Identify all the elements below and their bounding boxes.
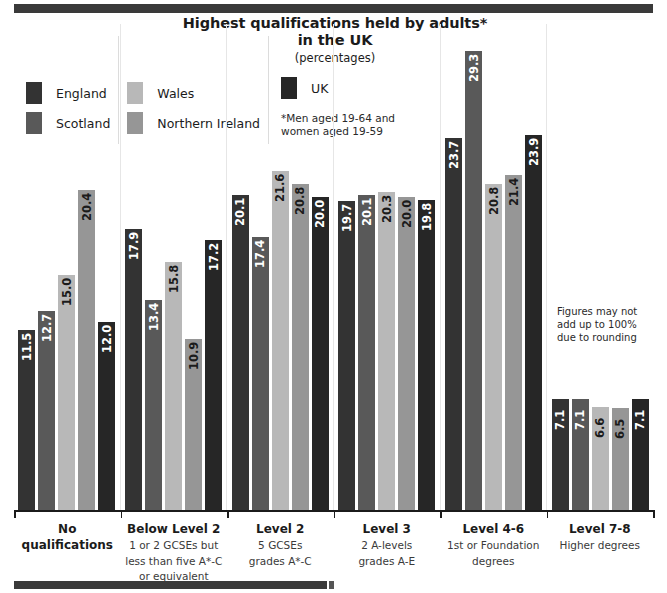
category-label: Level 4-61st or Foundationdegrees: [440, 521, 547, 584]
category-label-main: Below Level 2: [125, 521, 224, 537]
bar-value-label: 20.0: [398, 211, 415, 228]
bar-value-label: 21.6: [272, 185, 289, 202]
bar-value-label: 20.4: [78, 204, 95, 221]
bar-group: 17.913.415.810.917.2: [121, 24, 228, 510]
category-label-sub: grades A*-C: [231, 555, 330, 569]
bar: 20.8: [292, 184, 309, 510]
bar-value-label: 20.1: [232, 209, 249, 226]
bar: 7.1: [632, 399, 649, 510]
bar-value-label: 6.6: [592, 421, 609, 438]
bar-value-label: 23.7: [445, 152, 462, 169]
bar-value-label: 11.5: [18, 344, 35, 361]
bar: 19.8: [418, 200, 435, 510]
bar: 6.6: [592, 407, 609, 511]
bar-value-label: 10.9: [185, 353, 202, 370]
category-label: Below Level 21 or 2 GCSEs butless than f…: [121, 521, 228, 584]
bar: 21.6: [272, 171, 289, 510]
bar: 19.7: [338, 201, 355, 510]
bar: 23.7: [445, 138, 462, 510]
category-label-main: Level 2: [231, 521, 330, 537]
bar: 11.5: [18, 330, 35, 510]
category-label-sub: grades A-E: [338, 555, 437, 569]
bar-group: 7.17.16.66.57.1: [547, 24, 653, 510]
bar-value-label: 19.8: [418, 214, 435, 231]
bar-value-label: 20.1: [358, 209, 375, 226]
bar: 6.5: [612, 408, 629, 510]
bar: 10.9: [185, 339, 202, 510]
x-axis-tick: [653, 510, 655, 518]
header-rule: [14, 4, 653, 13]
category-label: Level 32 A-levelsgrades A-E: [334, 521, 441, 584]
bar-value-label: 15.8: [165, 276, 182, 293]
bar-value-label: 19.7: [338, 215, 355, 232]
bar: 12.0: [98, 322, 115, 510]
category-label-main: Level 3: [338, 521, 437, 537]
bar-value-label: 23.9: [525, 149, 542, 166]
bar: 29.3: [465, 51, 482, 510]
bar-value-label: 20.3: [378, 206, 395, 223]
x-axis-tick: [440, 510, 442, 518]
x-axis-tick: [121, 510, 123, 518]
bar: 20.1: [358, 195, 375, 510]
bar-value-label: 21.4: [505, 189, 522, 206]
bar: 20.0: [312, 197, 329, 511]
bar-value-label: 17.9: [125, 243, 142, 260]
bar-groups: 11.512.715.020.412.017.913.415.810.917.2…: [14, 24, 653, 510]
bar-value-label: 6.5: [612, 422, 629, 439]
bar: 17.4: [252, 237, 269, 510]
bar: 20.3: [378, 192, 395, 510]
bar-group: 19.720.120.320.019.8: [334, 24, 441, 510]
category-label-sub: 5 GCSEs: [231, 539, 330, 553]
bar-value-label: 17.4: [252, 251, 269, 268]
plot-area: 11.512.715.020.412.017.913.415.810.917.2…: [14, 24, 653, 510]
bar-value-label: 12.0: [98, 336, 115, 353]
category-label: No qualifications: [14, 521, 121, 584]
bar: 20.0: [398, 197, 415, 511]
bar: 17.2: [205, 240, 222, 510]
footer-rule-end-cap: [329, 581, 334, 589]
category-label-sub: Higher degrees: [551, 539, 650, 553]
bar: 15.8: [165, 262, 182, 510]
bar: 7.1: [572, 399, 589, 510]
category-label-main: Level 4-6: [444, 521, 543, 537]
bar: 15.0: [58, 275, 75, 510]
bar-value-label: 7.1: [552, 413, 569, 430]
bar-group: 23.729.320.821.423.9: [441, 24, 548, 510]
bar: 17.9: [125, 229, 142, 510]
x-axis-tick: [547, 510, 549, 518]
bar-value-label: 20.0: [312, 211, 329, 228]
bar-value-label: 7.1: [632, 413, 649, 430]
category-label-sub: degrees: [444, 555, 543, 569]
bar: 21.4: [505, 175, 522, 511]
bar-value-label: 12.7: [38, 325, 55, 342]
bar-value-label: 20.8: [485, 198, 502, 215]
bar: 20.8: [485, 184, 502, 510]
bar-value-label: 15.0: [58, 289, 75, 306]
bar-value-label: 17.2: [205, 254, 222, 271]
bar: 12.7: [38, 311, 55, 510]
bar: 23.9: [525, 135, 542, 510]
bar-group: 11.512.715.020.412.0: [14, 24, 121, 510]
category-label-sub: 1st or Foundation: [444, 539, 543, 553]
category-label-main: No qualifications: [18, 521, 117, 553]
category-label: Level 25 GCSEsgrades A*-C: [227, 521, 334, 584]
bar-value-label: 20.8: [292, 198, 309, 215]
bar-value-label: 7.1: [572, 413, 589, 430]
bar: 7.1: [552, 399, 569, 510]
category-label: Level 7-8Higher degrees: [547, 521, 654, 584]
footer-rule: [14, 581, 327, 589]
category-label-main: Level 7-8: [551, 521, 650, 537]
x-axis-tick: [227, 510, 229, 518]
bar-group: 20.117.421.620.820.0: [227, 24, 334, 510]
x-axis-tick: [14, 510, 16, 518]
bar-value-label: 29.3: [465, 65, 482, 82]
category-label-sub: less than five A*-C: [125, 555, 224, 569]
bar: 20.1: [232, 195, 249, 510]
bar: 13.4: [145, 300, 162, 510]
category-label-sub: 2 A-levels: [338, 539, 437, 553]
bar: 20.4: [78, 190, 95, 510]
x-axis-category-labels: No qualificationsBelow Level 21 or 2 GCS…: [14, 521, 653, 584]
bar-value-label: 13.4: [145, 314, 162, 331]
x-axis-tick: [334, 510, 336, 518]
x-axis-ticks: [14, 510, 653, 518]
